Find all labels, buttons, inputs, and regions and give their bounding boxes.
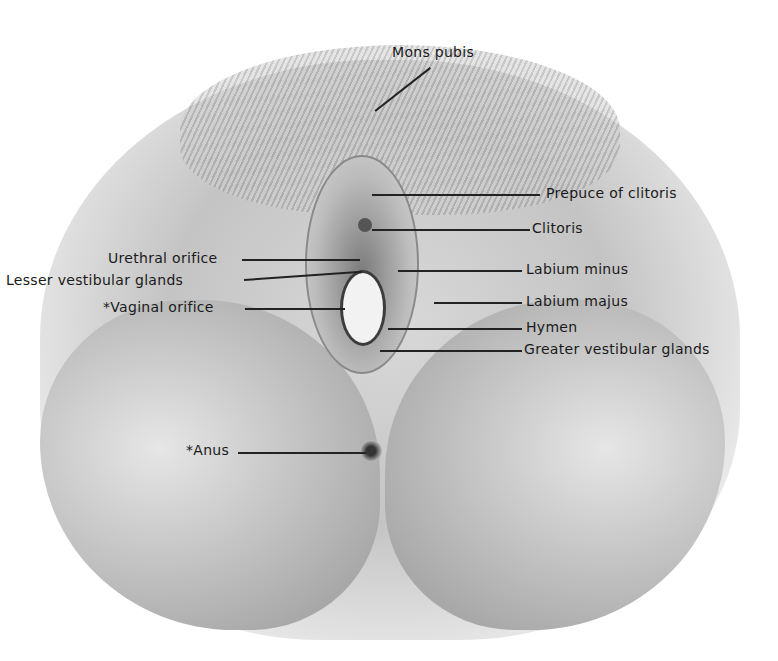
label-labium-majus: Labium majus: [526, 293, 628, 309]
leader-line-clitoris: [372, 229, 530, 231]
leader-line-hymen: [388, 328, 522, 330]
anatomical-illustration: Mons pubis Prepuce of clitoris Clitoris …: [0, 0, 778, 661]
label-lesser-vestibular-glands: Lesser vestibular glands: [6, 272, 183, 288]
label-labium-minus: Labium minus: [526, 261, 628, 277]
label-mons-pubis: Mons pubis: [392, 44, 474, 60]
label-prepuce-of-clitoris: Prepuce of clitoris: [546, 185, 677, 201]
leader-line-vaginal-orifice: [245, 308, 345, 310]
label-greater-vestibular-glands: Greater vestibular glands: [524, 341, 710, 357]
leader-line-urethral-orifice: [242, 259, 360, 261]
illustration-inner-opening: [340, 270, 386, 346]
label-vaginal-orifice: *Vaginal orifice: [103, 299, 214, 315]
leader-line-labium-minus: [398, 270, 522, 272]
label-anus: *Anus: [186, 442, 229, 458]
label-clitoris: Clitoris: [532, 220, 583, 236]
leader-line-anus: [238, 452, 366, 454]
illustration-small-structure: [358, 218, 372, 232]
label-urethral-orifice: Urethral orifice: [108, 250, 218, 266]
leader-line-labium-majus: [434, 302, 522, 304]
leader-line-greater-vestibular-glands: [380, 350, 522, 352]
leader-line-prepuce: [372, 194, 540, 196]
illustration-lower-structure: [360, 440, 382, 462]
label-hymen: Hymen: [526, 319, 577, 335]
